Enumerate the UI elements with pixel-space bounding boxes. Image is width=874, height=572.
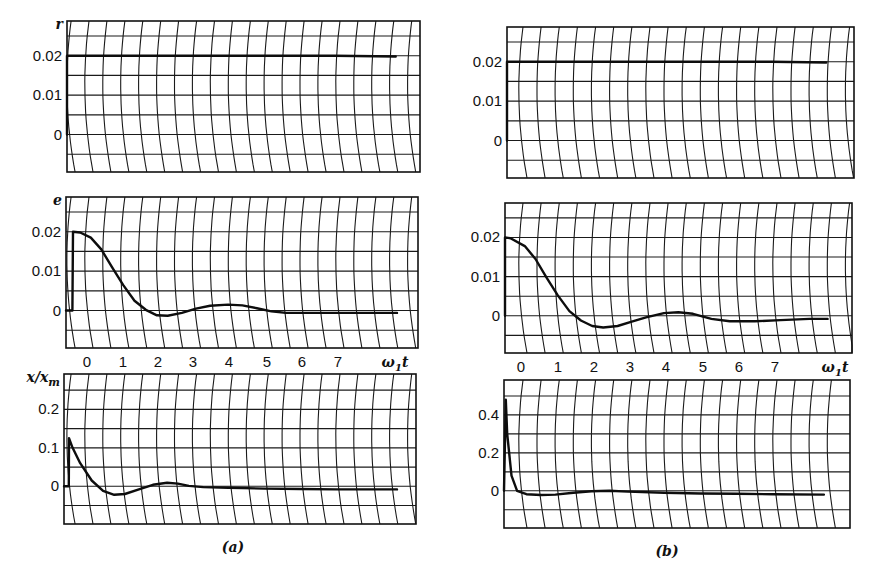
v-gridline-arc <box>628 203 636 353</box>
v-gridline-arc <box>737 380 745 528</box>
x-tick-label: 4 <box>662 358 670 375</box>
v-gridline-arc <box>318 21 326 172</box>
v-gridline-arc <box>628 380 636 528</box>
panel-frame <box>64 374 416 524</box>
trace-a-e <box>66 232 397 316</box>
panel-b-r <box>507 27 854 178</box>
y-tick-label: 0 <box>54 126 62 143</box>
v-gridline-arc <box>372 374 380 524</box>
x-tick-label: 3 <box>626 358 634 375</box>
v-gridline-arc <box>809 380 817 528</box>
v-gridline-arc <box>827 27 835 178</box>
y-tick-label: 0.02 <box>471 228 500 245</box>
v-gridline-arc <box>192 374 200 524</box>
v-gridline-arc <box>246 374 254 524</box>
v-gridline-arc <box>664 380 672 528</box>
label-layer: 0.020.010r0.020.010e0.20.10x/xm01234567ω… <box>26 16 849 559</box>
v-gridline-arc <box>103 197 111 348</box>
v-gridline-arc <box>354 374 362 524</box>
v-gridline-arc <box>264 21 272 172</box>
v-gridline-arc <box>646 27 654 178</box>
v-gridline-arc <box>845 27 853 178</box>
v-gridline-arc <box>718 203 726 353</box>
v-gridline-arc <box>139 197 147 348</box>
x-tick-label: 6 <box>735 358 743 375</box>
v-gridline-arc <box>282 374 290 524</box>
y-axis-name: e <box>53 192 62 208</box>
v-gridline-arc <box>646 380 654 528</box>
v-gridline-arc <box>85 197 93 348</box>
trace-b-e <box>505 238 828 328</box>
v-gridline-arc <box>264 374 272 524</box>
v-gridline-arc <box>300 197 308 348</box>
y-axis-name: x/xm <box>26 369 60 389</box>
v-gridline-arc <box>210 374 218 524</box>
x-tick-label: 0 <box>517 358 525 375</box>
v-gridline-arc <box>700 203 708 353</box>
v-gridline-arc <box>264 197 272 348</box>
v-gridline-arc <box>354 21 362 172</box>
v-gridline-arc <box>228 21 236 172</box>
x-tick-label: 2 <box>590 358 598 375</box>
v-gridline-arc <box>175 374 183 524</box>
y-tick-label: 0.01 <box>471 268 500 285</box>
v-gridline-arc <box>103 374 111 524</box>
v-gridline-arc <box>318 197 326 348</box>
v-gridline-arc <box>646 203 654 353</box>
y-tick-label: 0.4 <box>478 406 499 423</box>
v-gridline-arc <box>555 203 563 353</box>
v-gridline-arc <box>591 203 599 353</box>
v-gridline-arc <box>827 203 835 353</box>
v-gridline-arc <box>700 380 708 528</box>
v-gridline-arc <box>354 197 362 348</box>
v-gridline-arc <box>121 21 129 172</box>
v-gridline-arc <box>157 21 165 172</box>
v-gridline-arc <box>718 27 726 178</box>
v-gridline-arc <box>591 27 599 178</box>
panel-a-x <box>64 374 416 524</box>
v-gridline-arc <box>300 21 308 172</box>
v-gridline-arc <box>610 203 618 353</box>
x-tick-label: 0 <box>83 353 91 370</box>
caption-b: (b) <box>655 543 678 559</box>
v-gridline-arc <box>390 197 398 348</box>
v-gridline-arc <box>175 197 183 348</box>
v-gridline-arc <box>610 27 618 178</box>
v-gridline-arc <box>408 374 416 524</box>
v-gridline-arc <box>755 203 763 353</box>
v-gridline-arc <box>210 21 218 172</box>
v-gridline-arc <box>737 203 745 353</box>
v-gridline-arc <box>773 203 781 353</box>
v-gridline-arc <box>300 374 308 524</box>
x-tick-label: 7 <box>771 358 779 375</box>
panel-frame <box>67 21 420 172</box>
y-tick-label: 0.2 <box>478 444 499 461</box>
v-gridline-arc <box>246 21 254 172</box>
v-gridline-arc <box>519 27 527 178</box>
v-gridline-arc <box>336 197 344 348</box>
v-gridline-arc <box>228 197 236 348</box>
v-gridline-arc <box>519 203 527 353</box>
v-gridline-arc <box>555 27 563 178</box>
y-tick-label: 0.1 <box>38 439 59 456</box>
v-gridline-arc <box>157 197 165 348</box>
v-gridline-arc <box>408 197 416 348</box>
y-tick-label: 0 <box>492 307 500 324</box>
v-gridline-arc <box>791 203 799 353</box>
v-gridline-arc <box>228 374 236 524</box>
panel-frame <box>504 380 850 528</box>
v-gridline-arc <box>210 197 218 348</box>
x-tick-label: 3 <box>189 353 197 370</box>
v-gridline-arc <box>664 203 672 353</box>
v-gridline-arc <box>85 21 93 172</box>
v-gridline-arc <box>682 380 690 528</box>
y-tick-label: 0.01 <box>33 86 62 103</box>
figure-canvas: 0.020.010r0.020.010e0.20.10x/xm01234567ω… <box>0 0 874 572</box>
v-gridline-arc <box>573 27 581 178</box>
v-gridline-arc <box>537 380 545 528</box>
x-axis-name: ω1t <box>382 354 409 373</box>
x-tick-label: 5 <box>263 353 271 370</box>
v-gridline-arc <box>664 27 672 178</box>
y-tick-label: 0 <box>51 477 59 494</box>
v-gridline-arc <box>537 203 545 353</box>
